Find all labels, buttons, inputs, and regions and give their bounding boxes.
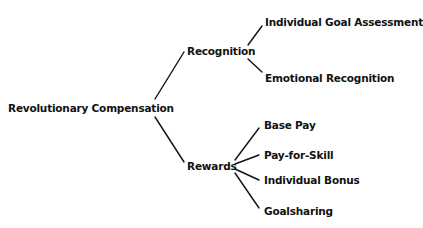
node-rewards: Rewards: [187, 160, 237, 172]
node-root: Revolutionary Compensation: [8, 102, 174, 114]
link-rewards-base-pay: [235, 128, 259, 160]
node-individual-bonus: Individual Bonus: [264, 174, 360, 186]
node-emotional-recognition: Emotional Recognition: [265, 72, 394, 84]
link-root-recognition: [155, 52, 184, 99]
link-root-rewards: [155, 117, 184, 162]
link-recognition-individual-goal-assessment: [248, 26, 262, 45]
link-recognition-emotional-recognition: [248, 59, 262, 72]
node-recognition: Recognition: [187, 45, 255, 57]
node-pay-for-skill: Pay-for-Skill: [264, 149, 333, 161]
node-individual-goal-assessment: Individual Goal Assessment: [265, 16, 423, 28]
node-goalsharing: Goalsharing: [264, 205, 333, 217]
node-base-pay: Base Pay: [264, 119, 316, 131]
